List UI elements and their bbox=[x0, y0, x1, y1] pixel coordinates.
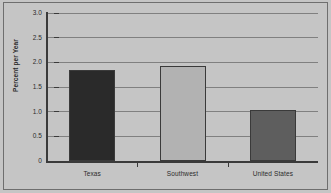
gridline bbox=[47, 13, 318, 14]
y-tick-mark bbox=[54, 62, 59, 63]
y-tick-mark bbox=[54, 136, 59, 137]
y-tick-label: 1.0 bbox=[18, 108, 42, 115]
y-axis-line bbox=[46, 12, 48, 163]
x-tick-mark bbox=[228, 163, 229, 167]
y-axis-title-label: Percent per Year bbox=[12, 18, 19, 114]
y-tick-mark bbox=[54, 13, 59, 14]
chart-figure: 00.51.01.52.02.53.0 Percent per Year Tex… bbox=[0, 0, 331, 193]
y-tick-label: 2.5 bbox=[18, 34, 42, 41]
bar bbox=[160, 66, 206, 161]
gridline bbox=[47, 37, 318, 38]
y-tick-label: 3.0 bbox=[18, 9, 42, 16]
y-tick-label: 2.0 bbox=[18, 58, 42, 65]
bar bbox=[69, 70, 115, 161]
y-tick-mark bbox=[54, 111, 59, 112]
x-axis-line bbox=[46, 161, 318, 163]
x-tick-mark bbox=[137, 163, 138, 167]
y-tick-mark bbox=[54, 37, 59, 38]
bar bbox=[250, 110, 296, 161]
plot-area bbox=[47, 13, 318, 161]
y-tick-mark bbox=[54, 161, 59, 162]
y-tick-label: 1.5 bbox=[18, 83, 42, 90]
x-axis-label: Texas bbox=[47, 170, 137, 178]
y-tick-mark bbox=[54, 87, 59, 88]
y-tick-label: 0.5 bbox=[18, 132, 42, 139]
y-tick-label: 0 bbox=[18, 157, 42, 164]
gridline bbox=[47, 62, 318, 63]
x-axis-label: United States bbox=[228, 170, 318, 178]
x-axis-label: Southwest bbox=[137, 170, 227, 178]
